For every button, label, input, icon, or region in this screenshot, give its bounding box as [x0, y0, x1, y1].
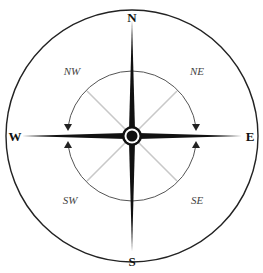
compass-svg: N S W E NW NE SW SE: [0, 0, 263, 273]
label-west: W: [9, 129, 22, 144]
label-east: E: [246, 129, 255, 144]
arrowhead-nw-icon: [64, 124, 72, 131]
label-southeast: SE: [191, 194, 204, 206]
needle-north: [129, 20, 135, 130]
label-northwest: NW: [63, 65, 81, 77]
label-north: N: [127, 10, 137, 25]
needle-east: [138, 133, 242, 139]
needle-west: [22, 133, 126, 139]
arc-ne: [132, 71, 196, 127]
arc-sw: [68, 145, 132, 201]
label-southwest: SW: [63, 194, 79, 206]
arc-se: [132, 145, 196, 201]
label-northeast: NE: [189, 65, 204, 77]
compass-rose: N S W E NW NE SW SE: [0, 0, 263, 273]
arrowhead-sw-icon: [64, 141, 72, 148]
label-south: S: [128, 254, 135, 269]
arrowhead-se-icon: [192, 141, 200, 148]
needle-south: [129, 142, 135, 252]
arc-nw: [68, 71, 132, 127]
center-hub-dot: [127, 131, 138, 142]
arrowhead-ne-icon: [192, 124, 200, 131]
